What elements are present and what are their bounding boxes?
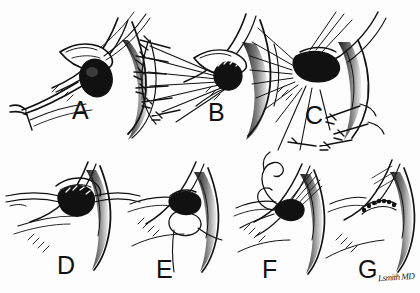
panel-label-g: G <box>358 257 377 282</box>
panel-label-c: C <box>305 103 323 128</box>
surgical-figure: Surgical technique illustration: sequent… <box>0 0 420 293</box>
panel-label-f: F <box>262 257 277 282</box>
figure-artwork <box>0 0 420 293</box>
panel-label-a: A <box>72 98 89 123</box>
panel-label-b: B <box>208 100 225 125</box>
panel-label-e: E <box>156 257 173 282</box>
panel-label-d: D <box>57 253 75 278</box>
